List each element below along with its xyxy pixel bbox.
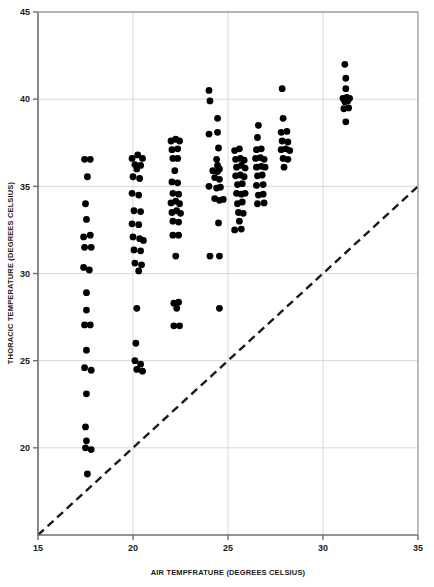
data-point (220, 196, 227, 203)
data-point (207, 98, 214, 105)
data-point (284, 138, 291, 145)
data-point (284, 156, 291, 163)
data-point (137, 208, 144, 215)
data-point (342, 75, 349, 82)
data-point (133, 305, 140, 312)
data-point (236, 218, 243, 225)
data-point (86, 267, 93, 274)
data-point (231, 227, 238, 234)
data-point (259, 172, 266, 179)
data-point (341, 61, 348, 68)
y-tick-label: 30 (20, 269, 30, 279)
data-point (129, 155, 136, 162)
data-point (132, 357, 139, 364)
data-point (215, 145, 222, 152)
y-axis-label: THORACIC TEMPERATURE (DEGREES CELSIUS) (6, 182, 15, 365)
data-point (217, 184, 224, 191)
data-point (255, 122, 262, 129)
data-point (83, 216, 90, 223)
data-point (239, 199, 246, 206)
x-tick-label: 20 (128, 543, 138, 553)
y-tick-label: 45 (20, 7, 30, 17)
data-point (176, 138, 183, 145)
data-point (169, 146, 176, 153)
data-point (174, 145, 181, 152)
data-point (171, 167, 178, 174)
data-point (139, 368, 146, 375)
data-point (345, 104, 352, 111)
data-point (136, 175, 143, 182)
data-point (206, 183, 213, 190)
data-point (170, 190, 177, 197)
y-tick-label: 35 (20, 182, 30, 192)
data-point (254, 134, 261, 141)
data-point (216, 176, 223, 183)
data-point (258, 145, 265, 152)
data-point (135, 267, 142, 274)
data-point (176, 200, 183, 207)
data-point (241, 173, 248, 180)
data-point (138, 261, 145, 268)
data-point (174, 155, 181, 162)
x-tick-label: 25 (223, 543, 233, 553)
data-point (173, 305, 180, 312)
data-point (239, 180, 246, 187)
data-point (216, 253, 223, 260)
data-point (135, 192, 142, 199)
data-point (242, 190, 249, 197)
data-point (84, 173, 91, 180)
data-point (236, 145, 243, 152)
data-point (81, 244, 88, 251)
data-point (130, 173, 137, 180)
data-point (280, 115, 287, 122)
data-point (175, 219, 182, 226)
data-point (213, 156, 220, 163)
data-point (206, 87, 213, 94)
data-point (172, 253, 179, 260)
data-point (260, 191, 267, 198)
data-point (216, 305, 223, 312)
x-tick-label: 35 (413, 543, 423, 553)
data-point (240, 210, 247, 217)
data-point (88, 244, 95, 251)
y-tick-label: 40 (20, 94, 30, 104)
data-point (133, 166, 140, 173)
data-point (82, 424, 89, 431)
data-point (129, 190, 136, 197)
data-point (83, 289, 90, 296)
data-point (254, 200, 261, 207)
data-point (207, 253, 214, 260)
data-point (83, 437, 90, 444)
data-point (87, 322, 94, 329)
data-point (135, 221, 142, 228)
data-point (242, 165, 249, 172)
data-point (131, 247, 138, 254)
data-point (215, 220, 222, 227)
y-tick-label: 20 (20, 443, 30, 453)
data-point (175, 232, 182, 239)
data-point (262, 164, 269, 171)
data-point (214, 129, 221, 136)
data-point (130, 233, 137, 240)
data-point (87, 156, 94, 163)
data-point (140, 237, 147, 244)
x-tick-label: 30 (318, 543, 328, 553)
data-point (139, 155, 146, 162)
data-point (83, 390, 90, 397)
data-point (81, 364, 88, 371)
data-point (253, 182, 260, 189)
data-point (174, 179, 181, 186)
scatter-plot-canvas: 202530354045 1520253035 AIR TEMPFRATURE … (0, 0, 434, 587)
x-tick-label: 15 (33, 543, 43, 553)
scatter-plot-figure: 202530354045 1520253035 AIR TEMPFRATURE … (0, 0, 434, 587)
data-point (88, 446, 95, 453)
data-point (170, 218, 177, 225)
data-point (80, 233, 87, 240)
data-point (87, 232, 94, 239)
data-point (342, 85, 349, 92)
x-axis-ticks: 1520253035 (33, 535, 423, 553)
data-point (175, 191, 182, 198)
data-point (206, 131, 213, 138)
y-tick-label: 25 (20, 356, 30, 366)
data-point (284, 128, 291, 135)
